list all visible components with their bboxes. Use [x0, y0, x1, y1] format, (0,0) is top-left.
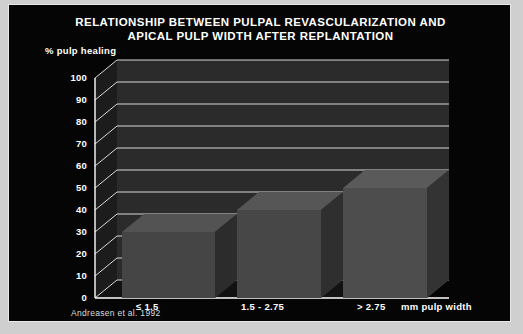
- y-tick-10: 10: [59, 270, 87, 281]
- bar-2-side: [321, 192, 343, 298]
- source-citation: Andreasen et al. 1992: [71, 308, 160, 318]
- y-tick-90: 90: [59, 94, 87, 105]
- bar-3-side: [427, 170, 449, 298]
- y-tick-70: 70: [59, 138, 87, 149]
- slide-background: RELATIONSHIP BETWEEN PULPAL REVASCULARIZ…: [0, 0, 523, 334]
- plot-area: 100 90 80 70 60 50 40 30 20 10 0 ≤ 1.5 1…: [9, 5, 511, 322]
- x-axis-unit-label: mm pulp width: [401, 301, 472, 312]
- y-tick-100: 100: [59, 72, 87, 83]
- y-tick-50: 50: [59, 182, 87, 193]
- y-tick-80: 80: [59, 116, 87, 127]
- y-tick-40: 40: [59, 204, 87, 215]
- y-tick-60: 60: [59, 160, 87, 171]
- x-tick-label-2: 1.5 - 2.75: [241, 301, 284, 312]
- bar-1: [122, 214, 237, 298]
- y-tick-0: 0: [59, 292, 87, 303]
- x-tick-label-3: > 2.75: [357, 301, 385, 312]
- bar-3: [343, 170, 449, 298]
- y-tick-20: 20: [59, 248, 87, 259]
- y-tick-30: 30: [59, 226, 87, 237]
- bar-3-front: [343, 188, 427, 298]
- chart-frame: RELATIONSHIP BETWEEN PULPAL REVASCULARIZ…: [8, 4, 511, 322]
- bar-2: [237, 192, 343, 298]
- bar-1-front: [122, 232, 215, 298]
- bar-2-front: [237, 210, 321, 298]
